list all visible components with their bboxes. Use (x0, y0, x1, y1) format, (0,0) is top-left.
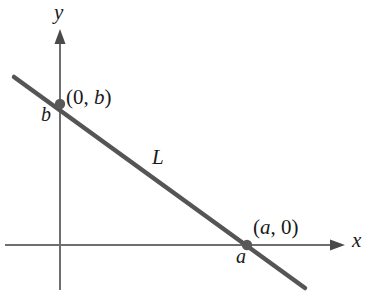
y-intercept-coord-suffix: ) (105, 85, 112, 109)
y-intercept-coord-variable: b (94, 85, 105, 109)
coordinate-diagram (0, 0, 371, 297)
x-intercept-coordinate-label: (a, 0) (253, 217, 299, 238)
x-intercept-coord-suffix: , 0) (271, 215, 299, 239)
x-intercept-coord-variable: a (260, 215, 271, 239)
x-intercept-coord-prefix: ( (253, 215, 260, 239)
y-intercept-coord-prefix: (0, (66, 85, 94, 109)
x-intercept-axis-label: a (236, 246, 246, 266)
y-intercept-dot (55, 99, 65, 109)
figure-background (0, 0, 371, 297)
line-label: L (152, 147, 164, 168)
y-intercept-coordinate-label: (0, b) (66, 87, 112, 108)
x-axis-label: x (352, 230, 361, 251)
y-intercept-axis-label: b (41, 104, 51, 124)
y-axis-label: y (54, 2, 63, 23)
